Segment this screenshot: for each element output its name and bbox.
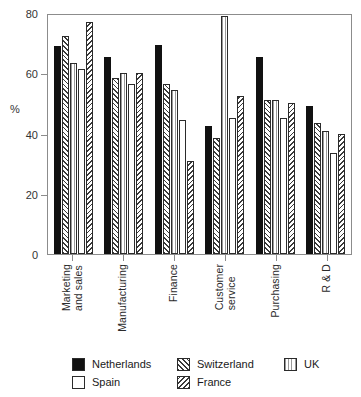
bar — [163, 84, 170, 254]
y-axis: 020406080 — [0, 0, 47, 269]
bar — [322, 131, 329, 255]
x-axis-category: Finance — [152, 255, 197, 350]
y-tick-label: 40 — [26, 129, 38, 140]
legend-label: Netherlands — [92, 358, 151, 370]
bar — [128, 84, 135, 254]
chart-legend: NetherlandsSwitzerlandUKSpainFrance — [72, 355, 352, 391]
bar — [171, 90, 178, 254]
bar — [338, 134, 345, 255]
y-tick-label: 20 — [26, 189, 38, 200]
bar — [70, 63, 77, 254]
bar — [86, 22, 93, 254]
legend-label: UK — [304, 358, 319, 370]
bar-group — [54, 15, 93, 254]
bar — [272, 100, 279, 254]
x-axis-category: Purchasing — [253, 255, 298, 350]
bars-layer — [48, 15, 351, 254]
legend-item-uk[interactable]: UK — [284, 358, 352, 371]
bar — [288, 103, 295, 254]
legend-label: Switzerland — [197, 358, 254, 370]
bar — [205, 126, 212, 254]
bar-group — [306, 15, 345, 254]
y-tick-label: 80 — [26, 9, 38, 20]
x-axis-category: R & D — [304, 255, 349, 350]
x-axis-category: Marketing and sales — [50, 255, 95, 350]
bar — [179, 120, 186, 254]
bar — [306, 106, 313, 254]
bar — [136, 73, 143, 254]
legend-swatch-icon — [177, 376, 190, 389]
plot-area — [47, 14, 352, 255]
y-tick-label: 60 — [26, 69, 38, 80]
bar — [213, 138, 220, 254]
x-axis-category: Manufacturing — [101, 255, 146, 350]
bar — [314, 123, 321, 254]
x-tick-mark — [123, 255, 124, 261]
bar — [62, 36, 69, 254]
x-tick-mark — [327, 255, 328, 261]
y-axis-title: % — [10, 104, 20, 115]
bar — [256, 57, 263, 254]
legend-swatch-icon — [72, 358, 85, 371]
bar — [155, 45, 162, 254]
x-axis: Marketing and salesManufacturingFinanceC… — [47, 255, 352, 350]
bar — [237, 96, 244, 254]
x-tick-mark — [174, 255, 175, 261]
x-axis-category-label: Manufacturing — [117, 264, 129, 332]
bar — [221, 16, 228, 254]
bar-chart-figure: 020406080 % Marketing and salesManufactu… — [0, 0, 361, 397]
legend-swatch-icon — [72, 376, 85, 389]
bar — [120, 73, 127, 254]
bar-group — [155, 15, 194, 254]
x-tick-mark — [72, 255, 73, 261]
legend-swatch-icon — [284, 358, 297, 371]
x-tick-mark — [225, 255, 226, 261]
bar — [330, 153, 337, 254]
x-axis-category-label: Customer service — [213, 264, 236, 310]
legend-item-spain[interactable]: Spain — [72, 376, 177, 389]
x-axis-category-label: Finance — [168, 264, 180, 302]
bar — [280, 118, 287, 254]
legend-label: France — [197, 376, 231, 388]
bar — [54, 46, 61, 254]
x-tick-mark — [276, 255, 277, 261]
bar-group — [205, 15, 244, 254]
legend-item-netherlands[interactable]: Netherlands — [72, 358, 177, 371]
legend-item-switzerland[interactable]: Switzerland — [177, 358, 284, 371]
x-axis-category: Customer service — [202, 255, 247, 350]
legend-item-france[interactable]: France — [177, 376, 284, 389]
bar — [229, 118, 236, 254]
bar — [187, 161, 194, 254]
y-tick-label: 0 — [32, 250, 38, 261]
bar — [264, 100, 271, 254]
x-axis-category-label: Purchasing — [270, 264, 282, 318]
x-axis-category-label: R & D — [321, 264, 333, 293]
bar — [104, 57, 111, 254]
bar — [78, 69, 85, 254]
bar-group — [256, 15, 295, 254]
x-axis-category-label: Marketing and sales — [61, 264, 84, 311]
bar — [112, 78, 119, 254]
bar-group — [104, 15, 143, 254]
legend-swatch-icon — [177, 358, 190, 371]
legend-label: Spain — [92, 376, 120, 388]
